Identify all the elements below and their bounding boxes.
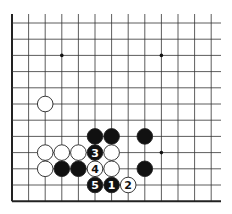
- move-number-label: 4: [91, 163, 99, 176]
- white-stone-move-4: 4: [87, 161, 103, 177]
- star-point: [160, 54, 164, 58]
- white-stone-disc: [37, 145, 53, 161]
- move-number-label: 2: [124, 179, 132, 192]
- white-stone-disc: [37, 161, 53, 177]
- black-stone-move-5: 5: [87, 177, 103, 193]
- black-stone-disc: [54, 161, 70, 177]
- move-number-label: 3: [91, 147, 99, 160]
- black-stone-disc: [104, 129, 120, 145]
- white-stone-disc: [71, 145, 87, 161]
- black-stone: [137, 161, 153, 177]
- white-stone: [104, 161, 120, 177]
- black-stone-move-3: 3: [87, 145, 103, 161]
- black-stone-disc: [87, 129, 103, 145]
- move-number-label: 1: [108, 179, 116, 192]
- black-stone-move-1: 1: [104, 177, 120, 193]
- black-stone: [54, 161, 70, 177]
- black-stone: [71, 161, 87, 177]
- black-stone-disc: [71, 161, 87, 177]
- go-board: 34512: [0, 0, 232, 214]
- black-stone-disc: [137, 129, 153, 145]
- white-stone: [37, 145, 53, 161]
- white-stone-disc: [37, 96, 53, 112]
- black-stone-disc: [137, 161, 153, 177]
- black-stone: [137, 129, 153, 145]
- white-stone: [71, 145, 87, 161]
- move-number-label: 5: [91, 179, 99, 192]
- white-stone-move-2: 2: [120, 177, 136, 193]
- black-stone: [87, 129, 103, 145]
- white-stone: [104, 145, 120, 161]
- white-stone: [37, 96, 53, 112]
- star-point: [60, 54, 64, 58]
- white-stone: [54, 145, 70, 161]
- white-stone-disc: [54, 145, 70, 161]
- white-stone-disc: [104, 161, 120, 177]
- white-stone: [37, 161, 53, 177]
- white-stone-disc: [104, 145, 120, 161]
- star-point: [160, 151, 164, 155]
- black-stone: [104, 129, 120, 145]
